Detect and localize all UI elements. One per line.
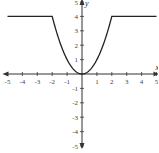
- y-axis-up-arrow-icon: [80, 0, 85, 5]
- x-tick-label: -5: [5, 78, 11, 86]
- x-axis-label: x: [155, 63, 159, 72]
- y-tick-label: -5: [72, 143, 78, 151]
- x-tick-label: -4: [19, 78, 25, 86]
- x-tick-label: -2: [49, 78, 55, 86]
- y-tick-label: 1: [75, 56, 79, 64]
- y-tick-label: 2: [75, 42, 79, 50]
- x-tick-label: -3: [34, 78, 40, 86]
- y-tick-label: -1: [72, 85, 78, 93]
- x-tick-label: -1: [64, 78, 70, 86]
- x-tick-label: 3: [125, 78, 129, 86]
- x-axis-right-arrow-icon: [154, 72, 159, 77]
- axes: [3, 0, 159, 149]
- y-tick-label: -4: [72, 128, 78, 136]
- y-tick-label: 5: [75, 0, 79, 7]
- y-tick-label: 3: [75, 27, 79, 35]
- x-tick-label: 1: [95, 78, 99, 86]
- x-tick-label: 2: [110, 78, 114, 86]
- y-tick-label: 4: [75, 13, 79, 21]
- y-tick-label: -2: [72, 99, 78, 107]
- axis-ticks: -5-4-3-2-112345-5-4-3-2-112345: [5, 0, 158, 151]
- x-tick-label: 5: [155, 78, 158, 86]
- x-tick-label: 4: [140, 78, 144, 86]
- y-tick-label: -3: [72, 114, 78, 122]
- piecewise-function-graph: -5-4-3-2-112345-5-4-3-2-112345 x y: [0, 0, 158, 153]
- y-axis-label: y: [84, 0, 89, 8]
